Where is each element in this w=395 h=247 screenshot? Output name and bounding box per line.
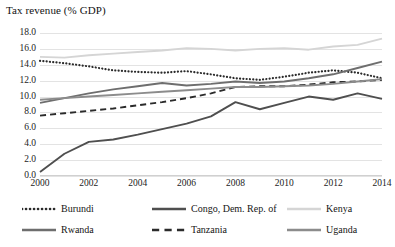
y-axis-tick-label: 12.0: [2, 76, 36, 86]
series-line-burundi: [40, 61, 382, 80]
legend-swatch-kenya: [287, 204, 321, 214]
gridline: [40, 176, 382, 177]
legend-label-kenya: Kenya: [326, 204, 352, 214]
y-axis-tick-label: 4.0: [2, 139, 36, 149]
series-container: [40, 33, 382, 176]
y-axis-tick-labels: 0.02.04.06.08.010.012.014.016.018.0: [0, 33, 36, 176]
x-axis-tick-label: 2012: [313, 179, 353, 189]
tax-revenue-line-chart: Tax revenue (% GDP) 0.02.04.06.08.010.01…: [0, 0, 395, 247]
x-axis-tick-label: 2010: [264, 179, 304, 189]
legend-label-uganda: Uganda: [326, 225, 357, 235]
y-axis-tick-label: 18.0: [2, 28, 36, 38]
legend-swatch-tanzania: [152, 225, 186, 235]
legend-item-rwanda[interactable]: Rwanda: [22, 221, 94, 239]
legend-item-uganda[interactable]: Uganda: [287, 221, 357, 239]
y-axis-tick-label: 2.0: [2, 155, 36, 165]
legend-item-burundi[interactable]: Burundi: [22, 200, 94, 218]
series-line-tanzania: [40, 80, 382, 116]
legend-label-congo-dem-rep-of: Congo, Dem. Rep. of: [191, 204, 277, 214]
legend-swatch-uganda: [287, 225, 321, 235]
legend-label-burundi: Burundi: [61, 204, 94, 214]
x-axis-tick-label: 2008: [215, 179, 255, 189]
series-line-congo-dem-rep-of: [40, 93, 382, 172]
x-axis-tick-label: 2002: [69, 179, 109, 189]
legend-item-kenya[interactable]: Kenya: [287, 200, 352, 218]
x-axis-tick-labels: 20002002200420062008201020122014: [40, 179, 382, 195]
y-axis-tick-label: 16.0: [2, 44, 36, 54]
legend-label-rwanda: Rwanda: [61, 225, 94, 235]
legend-item-tanzania[interactable]: Tanzania: [152, 221, 227, 239]
legend-item-congo-dem-rep-of[interactable]: Congo, Dem. Rep. of: [152, 200, 277, 218]
legend-swatch-rwanda: [22, 225, 56, 235]
x-axis-tick-label: 2014: [362, 179, 395, 189]
x-axis-tick-label: 2006: [167, 179, 207, 189]
plot-area: [40, 33, 382, 176]
legend-label-tanzania: Tanzania: [191, 225, 227, 235]
y-axis-tick-label: 10.0: [2, 92, 36, 102]
legend-swatch-burundi: [22, 204, 56, 214]
y-axis-tick-label: 6.0: [2, 123, 36, 133]
legend-swatch-congo-dem-rep-of: [152, 204, 186, 214]
y-axis-tick-label: 8.0: [2, 107, 36, 117]
series-line-kenya: [40, 39, 382, 58]
x-axis-tick-label: 2004: [118, 179, 158, 189]
chart-title: Tax revenue (% GDP): [6, 4, 106, 16]
legend: BurundiCongo, Dem. Rep. ofKenyaRwandaTan…: [22, 200, 382, 242]
y-axis-tick-label: 14.0: [2, 60, 36, 70]
x-axis-tick-label: 2000: [20, 179, 60, 189]
